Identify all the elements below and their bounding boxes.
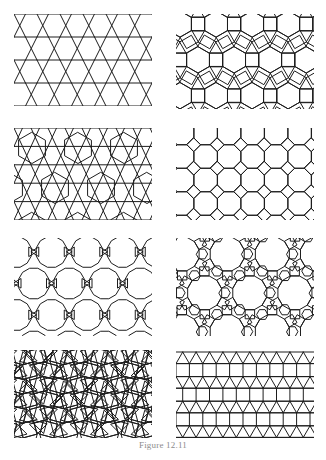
tiling-2-svg — [176, 14, 314, 109]
tiling-panel-4-truncated-square — [176, 128, 314, 220]
tiling-3-svg — [14, 128, 152, 220]
tiling-8-svg — [176, 350, 314, 438]
tiling-panel-grid — [0, 0, 326, 440]
figure-caption-text: Figure 12.11 — [0, 440, 326, 451]
tiling-7-svg — [14, 350, 152, 438]
tiling-panel-8-elongated-triangular — [176, 350, 314, 438]
tiling-4-svg — [176, 128, 314, 220]
tiling-panel-7-snub-square — [14, 350, 152, 438]
tiling-panel-6-dodecagon-square-hexagon — [176, 238, 314, 336]
figure-caption: Figure 12.11 — [0, 440, 326, 451]
figure-page: Figure 12.11 — [0, 0, 326, 460]
tiling-panel-2-rhombitrihexagonal — [176, 14, 314, 109]
tiling-panel-1-trihexagonal — [14, 14, 152, 106]
tiling-panel-5-dodecagon-triangle — [14, 238, 152, 336]
tiling-1-svg — [14, 14, 152, 106]
tiling-6-svg — [176, 238, 314, 336]
tiling-panel-3-hexagon-triangle — [14, 128, 152, 220]
tiling-5-svg — [14, 238, 152, 336]
